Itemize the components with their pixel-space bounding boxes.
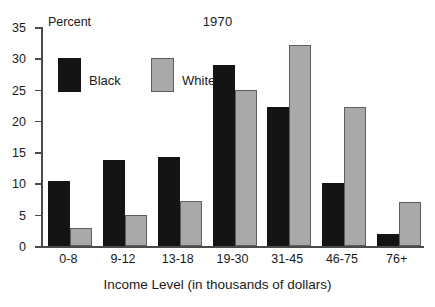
bar-white-0-8[interactable] <box>70 228 92 246</box>
x-axis-tick-label: 31-45 <box>260 252 315 266</box>
x-axis-tick-label: 19-30 <box>205 252 260 266</box>
bar-white-31-45[interactable] <box>289 45 311 246</box>
y-axis-tick: 35 <box>35 27 43 29</box>
bar-group <box>322 27 366 246</box>
legend-swatch-black <box>58 58 81 92</box>
bar-white-9-12[interactable] <box>125 215 147 246</box>
x-axis-tick-label: 46-75 <box>315 252 370 266</box>
bar-chart: 1970 Percent 05101520253035 0-89-1213-18… <box>0 0 435 307</box>
y-axis-tick: 10 <box>35 183 43 185</box>
y-axis-tick-label: 5 <box>19 209 26 223</box>
x-axis-tick-label: 76+ <box>369 252 424 266</box>
y-axis-tick-label: 35 <box>12 21 26 35</box>
bar-group <box>213 27 257 246</box>
x-axis-title: Income Level (in thousands of dollars) <box>0 277 435 292</box>
bar-black-9-12[interactable] <box>103 160 125 246</box>
x-axis-tick-labels: 0-89-1213-1819-3031-4546-7576+ <box>41 252 424 272</box>
y-axis-tick-label: 15 <box>12 146 26 160</box>
bar-group <box>267 27 311 246</box>
y-axis-tick: 20 <box>35 121 43 123</box>
bar-white-46-75[interactable] <box>344 107 366 246</box>
y-axis-tick: 30 <box>35 58 43 60</box>
y-axis-tick: 25 <box>35 90 43 92</box>
y-axis-tick-label: 0 <box>19 240 26 254</box>
legend-label: Black <box>89 73 121 88</box>
y-axis-tick: 15 <box>35 152 43 154</box>
y-axis-tick-label: 10 <box>12 177 26 191</box>
x-axis-tick-label: 0-8 <box>41 252 96 266</box>
bar-black-0-8[interactable] <box>48 181 70 246</box>
bar-black-13-18[interactable] <box>158 157 180 246</box>
bar-white-19-30[interactable] <box>235 90 257 246</box>
bar-group <box>377 27 421 246</box>
bar-white-76+[interactable] <box>399 202 421 246</box>
y-axis-tick-label: 25 <box>12 84 26 98</box>
legend-item-white[interactable]: White <box>151 58 215 92</box>
bar-black-31-45[interactable] <box>267 107 289 246</box>
x-axis-line <box>41 246 424 248</box>
legend-item-black[interactable]: Black <box>58 58 121 92</box>
bar-black-76+[interactable] <box>377 234 399 246</box>
x-axis-tick-label: 9-12 <box>96 252 151 266</box>
y-axis-tick: 0 <box>35 246 43 248</box>
y-axis-tick: 5 <box>35 215 43 217</box>
legend-label: White <box>182 73 215 88</box>
legend-swatch-white <box>151 58 174 92</box>
x-axis-tick-label: 13-18 <box>150 252 205 266</box>
y-axis-tick-label: 20 <box>12 115 26 129</box>
bar-white-13-18[interactable] <box>180 201 202 246</box>
bar-black-19-30[interactable] <box>213 65 235 246</box>
y-axis-tick-label: 30 <box>12 52 26 66</box>
bar-black-46-75[interactable] <box>322 183 344 246</box>
